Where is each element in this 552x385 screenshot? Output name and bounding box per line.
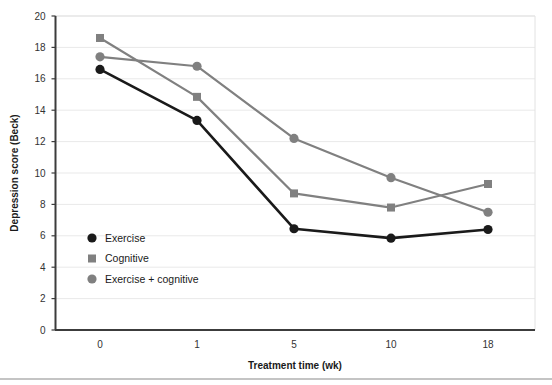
legend-exercise-marker-swatch <box>87 233 96 242</box>
series-exercise-cognitive-marker-3 <box>386 173 395 182</box>
series-cognitive-marker-2 <box>290 189 298 197</box>
series-exercise-cognitive-marker-0 <box>95 52 104 61</box>
series-cognitive-marker-4 <box>484 180 492 188</box>
y-tick-label-18: 18 <box>34 42 46 53</box>
y-tick-label-12: 12 <box>34 136 46 147</box>
legend-label-exercise-cognitive: Exercise + cognitive <box>105 273 199 285</box>
chart-figure: 02468101214161820 0151018 ExerciseCognit… <box>0 0 552 385</box>
y-tick-label-0: 0 <box>40 325 46 336</box>
series-exercise-marker-0 <box>95 65 104 74</box>
y-tick-label-6: 6 <box>40 230 46 241</box>
line-chart: 02468101214161820 0151018 ExerciseCognit… <box>0 0 552 385</box>
y-tick-label-14: 14 <box>34 105 46 116</box>
series-exercise-marker-3 <box>386 234 395 243</box>
series-exercise-marker-1 <box>192 116 201 125</box>
x-tick-label-10: 10 <box>385 339 397 350</box>
series-exercise-marker-4 <box>483 225 492 234</box>
chart-background <box>0 0 552 385</box>
x-tick-label-0: 0 <box>97 339 103 350</box>
y-tick-label-4: 4 <box>40 262 46 273</box>
x-tick-label-5: 5 <box>291 339 297 350</box>
y-tick-label-20: 20 <box>34 11 46 22</box>
x-tick-label-18: 18 <box>482 339 494 350</box>
legend-item-exercise-cognitive: Exercise + cognitive <box>87 273 198 285</box>
series-cognitive-marker-3 <box>387 204 395 212</box>
series-exercise-cognitive-marker-1 <box>192 62 201 71</box>
legend-exercise-cognitive-marker-swatch <box>87 274 96 283</box>
legend-cognitive-marker-swatch <box>88 255 96 263</box>
series-exercise-marker-2 <box>289 224 298 233</box>
series-cognitive-marker-1 <box>193 93 201 101</box>
x-axis-title: Treatment time (wk) <box>248 360 342 371</box>
legend-label-exercise: Exercise <box>105 232 145 244</box>
series-cognitive-marker-0 <box>96 34 104 42</box>
legend-label-cognitive: Cognitive <box>105 252 149 264</box>
y-axis-title: Depression score (Beck) <box>9 114 20 231</box>
y-tick-label-2: 2 <box>40 293 46 304</box>
series-exercise-cognitive-marker-2 <box>289 134 298 143</box>
x-tick-label-1: 1 <box>194 339 200 350</box>
y-tick-label-16: 16 <box>34 73 46 84</box>
y-tick-label-8: 8 <box>40 199 46 210</box>
y-tick-label-10: 10 <box>34 168 46 179</box>
series-exercise-cognitive-marker-4 <box>483 208 492 217</box>
